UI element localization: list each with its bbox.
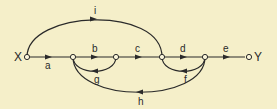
arrow-g-icon <box>91 69 98 74</box>
arrow-f-icon <box>180 69 187 74</box>
node-x <box>24 54 29 59</box>
arrow-d-icon <box>180 55 187 60</box>
output-label: Y <box>254 50 262 64</box>
label-b: b <box>92 43 98 54</box>
label-h: h <box>138 96 144 107</box>
signal-flow-graph: X Y a b c d e g f h i <box>0 0 277 109</box>
label-g: g <box>94 74 100 85</box>
label-e: e <box>223 43 229 54</box>
label-c: c <box>135 43 140 54</box>
edge-g <box>73 57 116 71</box>
arrow-b-icon <box>91 55 98 60</box>
edge-f <box>162 57 205 71</box>
input-label: X <box>14 50 22 64</box>
label-d: d <box>180 43 186 54</box>
node-4 <box>202 54 207 59</box>
node-y <box>246 54 251 59</box>
node-2 <box>113 54 118 59</box>
arrow-h-icon <box>136 90 143 95</box>
label-f: f <box>184 74 187 85</box>
label-a: a <box>45 60 51 71</box>
arrow-a-icon <box>45 55 52 60</box>
arrow-i-icon <box>90 17 97 22</box>
node-1 <box>70 54 75 59</box>
arrow-e-icon <box>223 55 230 60</box>
label-i: i <box>94 5 96 16</box>
node-3 <box>159 54 164 59</box>
arrow-c-icon <box>135 55 142 60</box>
